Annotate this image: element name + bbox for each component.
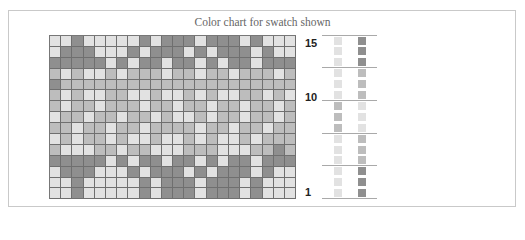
grid-cell bbox=[207, 167, 218, 178]
grid-cell bbox=[162, 188, 173, 199]
grid-cell bbox=[84, 69, 95, 80]
grid-cell bbox=[195, 145, 206, 156]
legend-swatch-left bbox=[334, 37, 342, 45]
grid-cell bbox=[184, 134, 195, 145]
grid-cell bbox=[72, 178, 83, 189]
grid-cell bbox=[274, 101, 285, 112]
grid-cell bbox=[263, 188, 274, 199]
grid-cell bbox=[263, 69, 274, 80]
grid-cell bbox=[285, 134, 296, 145]
grid-cell bbox=[229, 178, 240, 189]
grid-cell bbox=[251, 123, 262, 134]
grid-cell bbox=[128, 47, 139, 58]
grid-cell bbox=[184, 188, 195, 199]
grid-cell bbox=[128, 36, 139, 47]
grid-cell bbox=[251, 90, 262, 101]
legend-swatch-right bbox=[358, 178, 366, 186]
grid-cell bbox=[229, 36, 240, 47]
grid-cell bbox=[140, 112, 151, 123]
grid-cell bbox=[50, 58, 61, 69]
grid-cell bbox=[251, 156, 262, 167]
grid-cell bbox=[285, 178, 296, 189]
grid-cell bbox=[207, 80, 218, 91]
grid-cell bbox=[207, 188, 218, 199]
grid-cell bbox=[128, 80, 139, 91]
grid-cell bbox=[251, 36, 262, 47]
grid-cell bbox=[285, 69, 296, 80]
grid-cell bbox=[84, 178, 95, 189]
grid-cell bbox=[263, 90, 274, 101]
legend-separator bbox=[322, 100, 377, 101]
grid-cell bbox=[106, 101, 117, 112]
grid-cell bbox=[240, 188, 251, 199]
grid-cell bbox=[184, 123, 195, 134]
grid-cell bbox=[106, 188, 117, 199]
grid-cell bbox=[162, 167, 173, 178]
grid-cell bbox=[61, 156, 72, 167]
grid-cell bbox=[151, 188, 162, 199]
grid-cell bbox=[207, 112, 218, 123]
grid-cell bbox=[61, 145, 72, 156]
grid-cell bbox=[263, 80, 274, 91]
grid-cell bbox=[263, 36, 274, 47]
grid-cell bbox=[106, 167, 117, 178]
grid-cell bbox=[173, 178, 184, 189]
grid-cell bbox=[117, 188, 128, 199]
grid-cell bbox=[72, 80, 83, 91]
grid-cell bbox=[240, 112, 251, 123]
grid-cell bbox=[117, 178, 128, 189]
grid-cell bbox=[274, 90, 285, 101]
grid-cell bbox=[151, 58, 162, 69]
grid-cell bbox=[285, 80, 296, 91]
grid-cell bbox=[106, 69, 117, 80]
grid-cell bbox=[274, 145, 285, 156]
grid-cell bbox=[117, 112, 128, 123]
grid-cell bbox=[151, 90, 162, 101]
grid-cell bbox=[140, 134, 151, 145]
grid-cell bbox=[274, 112, 285, 123]
grid-cell bbox=[274, 47, 285, 58]
grid-cell bbox=[184, 36, 195, 47]
grid-cell bbox=[285, 101, 296, 112]
grid-cell bbox=[151, 36, 162, 47]
legend-swatch-right bbox=[358, 80, 366, 88]
grid-cell bbox=[274, 134, 285, 145]
grid-cell bbox=[162, 178, 173, 189]
legend-swatch-right bbox=[358, 167, 366, 175]
grid-cell bbox=[84, 58, 95, 69]
grid-cell bbox=[251, 167, 262, 178]
grid-cell bbox=[285, 36, 296, 47]
grid-cell bbox=[61, 90, 72, 101]
grid-cell bbox=[263, 58, 274, 69]
legend-separator bbox=[322, 133, 377, 134]
grid-cell bbox=[106, 145, 117, 156]
grid-cell bbox=[140, 188, 151, 199]
grid-cell bbox=[117, 167, 128, 178]
grid-cell bbox=[140, 156, 151, 167]
grid-cell bbox=[229, 101, 240, 112]
legend-swatch-left bbox=[334, 189, 342, 197]
grid-cell bbox=[50, 101, 61, 112]
grid-cell bbox=[117, 145, 128, 156]
grid-cell bbox=[184, 145, 195, 156]
grid-cell bbox=[195, 80, 206, 91]
grid-cell bbox=[218, 112, 229, 123]
grid-cell bbox=[95, 112, 106, 123]
grid-cell bbox=[207, 90, 218, 101]
grid-cell bbox=[173, 188, 184, 199]
grid-cell bbox=[184, 47, 195, 58]
grid-cell bbox=[162, 156, 173, 167]
grid-cell bbox=[128, 101, 139, 112]
grid-cell bbox=[184, 167, 195, 178]
legend-swatch-right bbox=[358, 135, 366, 143]
grid-cell bbox=[162, 69, 173, 80]
grid-cell bbox=[263, 123, 274, 134]
grid-cell bbox=[106, 47, 117, 58]
grid-cell bbox=[285, 123, 296, 134]
legend-swatch-left bbox=[334, 178, 342, 186]
grid-cell bbox=[207, 156, 218, 167]
grid-cell bbox=[72, 123, 83, 134]
grid-cell bbox=[61, 101, 72, 112]
grid-cell bbox=[195, 101, 206, 112]
grid-cell bbox=[229, 145, 240, 156]
